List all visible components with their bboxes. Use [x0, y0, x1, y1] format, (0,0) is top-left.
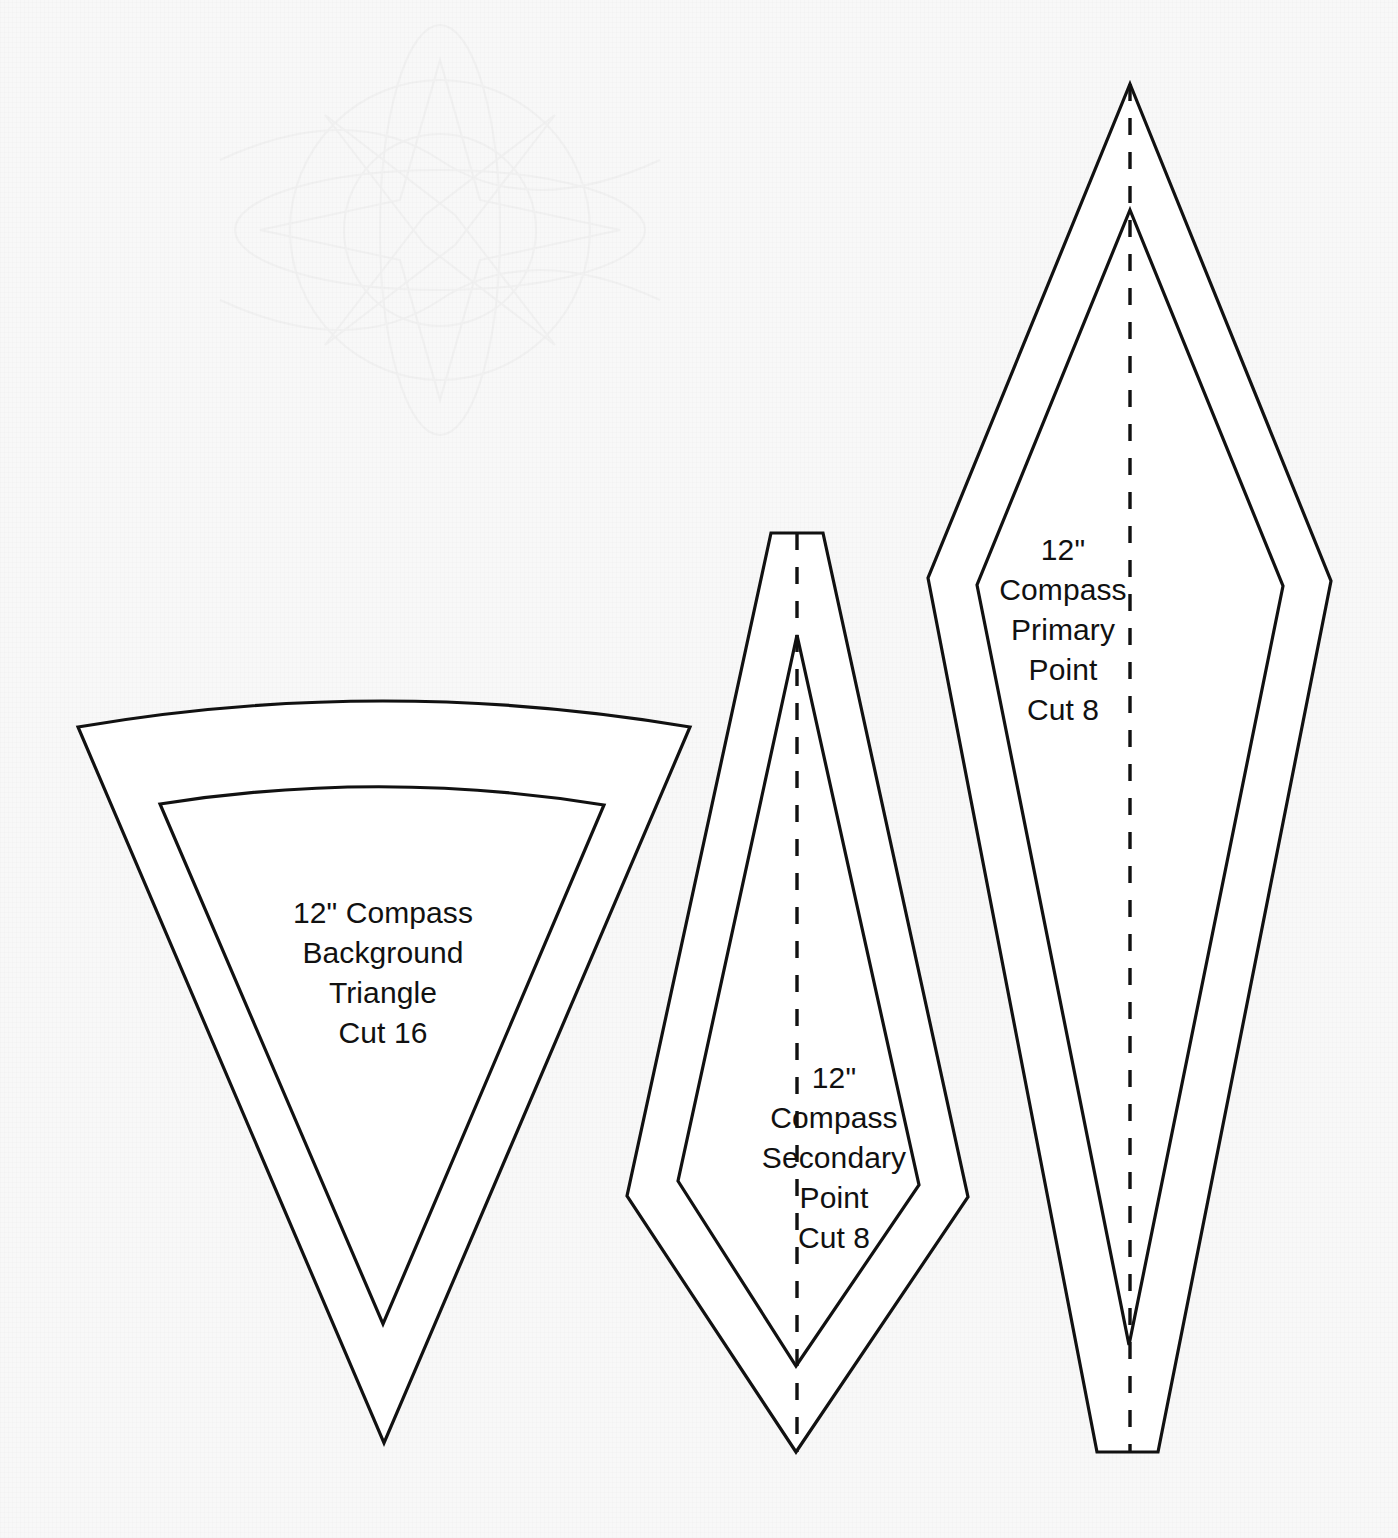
template-sheet: 12" Compass Background Triangle Cut 16 1…	[0, 0, 1398, 1538]
template-shape-primary-point[interactable]	[0, 0, 1398, 1538]
